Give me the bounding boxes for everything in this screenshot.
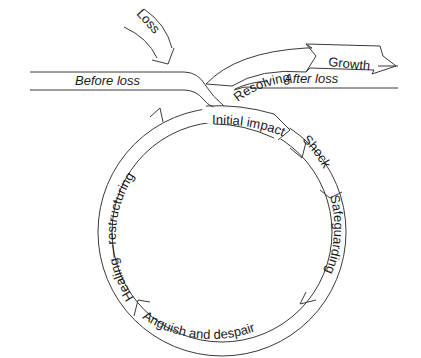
loss-arrow: Loss bbox=[124, 6, 174, 64]
loss-label: Loss bbox=[134, 6, 164, 37]
after-loss-label: After loss bbox=[283, 71, 339, 86]
shock-text: Shock bbox=[300, 132, 334, 171]
grief-cycle-diagram: Before loss After loss Resolving Growth … bbox=[0, 0, 421, 358]
anguish-label: Anguish and despair bbox=[140, 308, 257, 342]
shock-label: Shock bbox=[300, 132, 334, 171]
healing-label: Healing—restructuring bbox=[104, 169, 137, 304]
anguish-text: Anguish and despair bbox=[140, 308, 257, 342]
before-loss-band: Before loss bbox=[30, 72, 224, 110]
safeguarding-text: Safeguarding bbox=[322, 193, 346, 276]
healing-text: Healing—restructuring bbox=[104, 169, 137, 304]
safeguarding-label: Safeguarding bbox=[322, 193, 346, 276]
before-loss-label: Before loss bbox=[75, 73, 141, 88]
